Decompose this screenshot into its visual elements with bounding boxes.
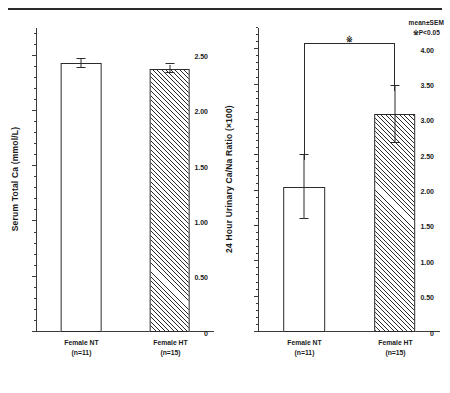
x-category-name: Female NT [64,339,98,346]
x-category-label: Female HT(n=15) [126,334,215,360]
y-tick-minor [34,309,37,310]
y-tick-minor [256,105,259,106]
y-tick-minor [256,98,259,99]
x-category-label: Female HT(n=15) [350,334,441,360]
y-tick-minor [256,289,259,290]
y-axis-label-left: Serum Total Ca (mmol/L) [8,24,22,334]
x-category-name: Female NT [287,339,321,346]
y-tick-minor [34,320,37,321]
y-tick-major [254,190,258,191]
y-tick-minor [256,112,259,113]
error-bar-cap-bottom [390,142,399,143]
y-tick-minor [34,176,37,177]
y-tick-minor [256,246,259,247]
error-bar-cap-top [390,85,399,86]
y-tick-minor [256,218,259,219]
y-tick-minor [34,121,37,122]
y-tick-minor [256,147,259,148]
y-tick-minor [256,232,259,233]
y-tick-minor [256,168,259,169]
error-bar [394,86,395,143]
x-category-n: (n=11) [37,348,126,358]
y-tick-major [32,331,36,332]
bar-female-ht[interactable] [149,69,190,332]
y-tick-minor [256,317,259,318]
y-tick-minor [34,77,37,78]
y-tick-major [32,220,36,221]
y-tick-minor [256,324,259,325]
error-bar-cap-bottom [165,72,174,73]
chart-panel-urinary-cana-ratio: 24 Hour Urinary Ca/Na Ratio (×100) 00.50… [222,24,444,369]
y-tick-major [32,165,36,166]
y-tick-minor [256,34,259,35]
bar-female-ht[interactable] [374,114,416,332]
y-tick-minor [34,209,37,210]
y-tick-minor [256,175,259,176]
y-tick-minor [256,62,259,63]
y-tick-major [254,260,258,261]
y-tick-minor [34,44,37,45]
y-tick-minor [256,274,259,275]
bar-group-right [259,28,440,332]
y-tick-minor [34,66,37,67]
y-tick-minor [34,254,37,255]
y-tick-minor [256,91,259,92]
significance-bracket-arm-right [394,43,395,91]
y-tick-minor [34,243,37,244]
y-tick-minor [256,140,259,141]
y-tick-minor [34,88,37,89]
y-tick-minor [256,253,259,254]
bar-group-left [37,28,214,332]
plot-area-right: 00.501.001.502.002.503.003.504.00 ※ Fema… [258,28,440,360]
y-tick-minor [256,126,259,127]
bar-slot [126,28,215,332]
y-tick-minor [256,133,259,134]
y-tick-minor [256,211,259,212]
y-tick-minor [256,282,259,283]
chart-panel-serum-total-ca: Serum Total Ca (mmol/L) 00.501.001.502.0… [8,24,218,369]
y-tick-minor [34,298,37,299]
y-tick-major [254,48,258,49]
y-tick-major [32,276,36,277]
figure-container: mean±SEM ※P<0.05 Serum Total Ca (mmol/L)… [0,0,450,393]
y-tick-minor [256,161,259,162]
y-tick-major [254,225,258,226]
y-tick-minor [34,99,37,100]
x-category-n: (n=15) [350,348,441,358]
y-tick-major [32,55,36,56]
y-tick-minor [256,239,259,240]
x-category-name: Female HT [153,339,187,346]
y-tick-major [254,296,258,297]
y-tick-minor [34,132,37,133]
y-tick-major [254,154,258,155]
bar-female-nt[interactable] [61,63,102,332]
significance-bracket-arm-left [304,43,305,161]
y-tick-minor [256,204,259,205]
y-tick-minor [256,27,259,28]
y-tick-minor [256,183,259,184]
x-category-label: Female NT(n=11) [37,334,126,360]
figure-top-rule [8,8,442,10]
x-category-n: (n=11) [259,348,350,358]
x-category-label: Female NT(n=11) [259,334,350,360]
y-tick-major [254,331,258,332]
y-tick-minor [256,69,259,70]
significance-bracket: ※ [304,43,395,44]
y-tick-major [254,84,258,85]
x-category-n: (n=15) [126,348,215,358]
y-tick-minor [34,143,37,144]
error-bar [304,155,305,219]
y-tick-minor [256,197,259,198]
bar-slot [350,28,441,332]
error-bar-cap-bottom [300,218,309,219]
y-tick-minor [34,154,37,155]
y-tick-minor [34,198,37,199]
y-tick-minor [256,310,259,311]
y-tick-minor [256,77,259,78]
x-category-name: Female HT [378,339,412,346]
plot-area-left: 00.501.001.502.002.50 Female NT(n=11)Fem… [36,28,214,360]
y-tick-major [32,110,36,111]
y-tick-minor [34,287,37,288]
error-bar-cap-top [165,63,174,64]
bar-slot [37,28,126,332]
